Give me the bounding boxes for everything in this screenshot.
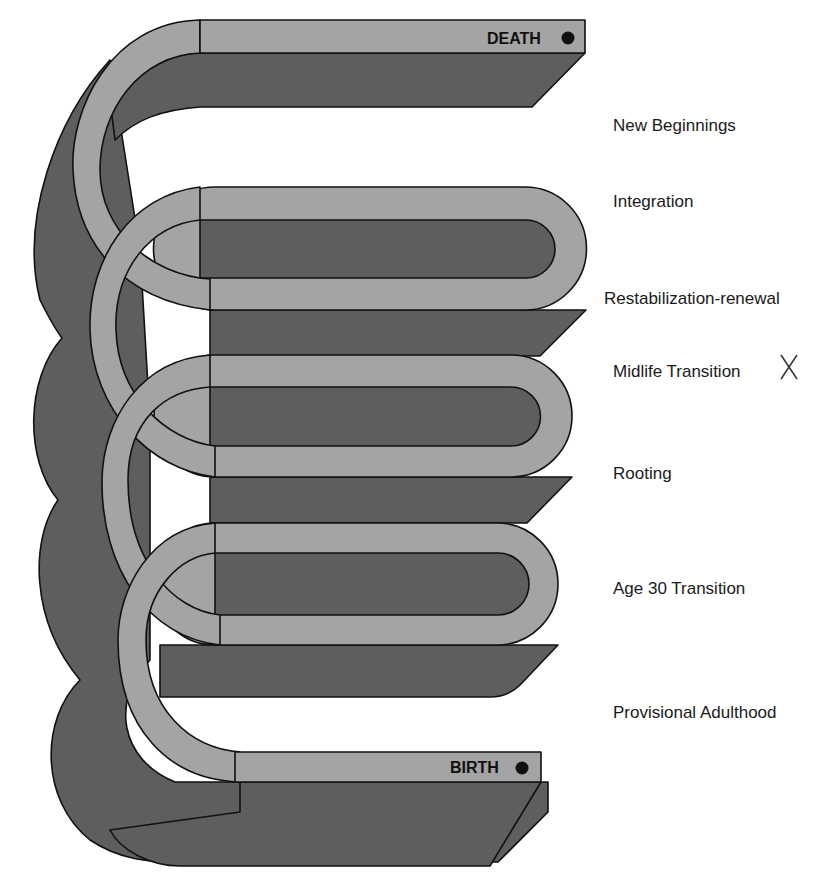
loop2-face (210, 477, 572, 523)
stage-label-new-beginnings: New Beginnings (613, 116, 736, 136)
loop2-inner (210, 387, 541, 446)
stage-label-rooting: Rooting (613, 464, 672, 484)
stage-label-provisional-adulthood: Provisional Adulthood (613, 703, 777, 723)
birth-dot-icon (516, 762, 529, 775)
death-dot-icon (562, 32, 575, 45)
stage-label-integration: Integration (613, 192, 693, 212)
loop1-inner (200, 220, 555, 278)
stage-label-age-30-transition: Age 30 Transition (613, 579, 745, 599)
top-band-face (110, 53, 585, 140)
x-mark-icon (779, 353, 799, 381)
loop3-inner (215, 553, 529, 615)
death-label: DEATH (487, 30, 541, 47)
loop1-face (210, 310, 586, 356)
loop3-face (160, 645, 558, 697)
stage-label-midlife-transition: Midlife Transition (613, 362, 741, 382)
stage-label-restabilization-renewal: Restabilization-renewal (604, 289, 780, 309)
birth-label: BIRTH (450, 759, 499, 776)
